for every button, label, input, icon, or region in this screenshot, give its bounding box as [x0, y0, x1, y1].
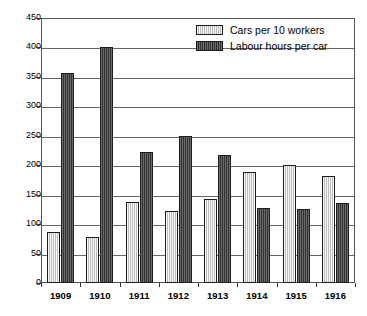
x-axis-tick-label: 1914 — [246, 290, 267, 301]
legend-item[interactable]: Cars per 10 workers — [196, 23, 356, 37]
legend-item[interactable]: Labour hours per car — [196, 39, 356, 53]
x-axis-tick-mark — [237, 283, 238, 287]
bars-layer — [41, 18, 355, 283]
x-axis-tick-label: 1910 — [89, 290, 110, 301]
bar-1914-series2 — [257, 208, 270, 283]
x-axis-tick-mark — [120, 283, 121, 287]
legend-swatch-icon — [196, 25, 223, 35]
bar-1915-series2 — [297, 209, 310, 283]
chart-legend: Cars per 10 workersLabour hours per car — [196, 23, 356, 55]
bar-1912-series2 — [179, 136, 192, 283]
bar-1909-series1 — [47, 232, 60, 283]
x-axis-tick-label: 1916 — [325, 290, 346, 301]
legend-label: Labour hours per car — [230, 40, 327, 52]
bar-1916-series2 — [336, 203, 349, 283]
y-axis: 050100150200250300350400450 — [0, 0, 41, 316]
legend-label: Cars per 10 workers — [230, 24, 325, 36]
x-axis-tick-label: 1909 — [50, 290, 71, 301]
x-axis: 19091910191119121913191419151916 — [41, 283, 355, 316]
x-axis-tick-label: 1911 — [129, 290, 150, 301]
bar-1915-series1 — [283, 165, 296, 283]
bar-chart: 050100150200250300350400450 190919101911… — [0, 0, 367, 316]
x-axis-tick-mark — [80, 283, 81, 287]
x-axis-tick-label: 1915 — [286, 290, 307, 301]
bar-1910-series2 — [100, 47, 113, 283]
bar-1911-series1 — [126, 202, 139, 283]
x-axis-tick-mark — [198, 283, 199, 287]
x-axis-tick-mark — [277, 283, 278, 287]
bar-1913-series1 — [204, 199, 217, 283]
x-axis-tick-label: 1912 — [168, 290, 189, 301]
bar-1910-series1 — [86, 237, 99, 283]
x-axis-tick-mark — [355, 283, 356, 287]
x-axis-tick-label: 1913 — [207, 290, 228, 301]
bar-1912-series1 — [165, 211, 178, 283]
bar-1916-series1 — [322, 176, 335, 283]
bar-1913-series2 — [218, 155, 231, 283]
x-axis-tick-mark — [316, 283, 317, 287]
legend-swatch-icon — [196, 41, 223, 51]
x-axis-tick-mark — [159, 283, 160, 287]
bar-1909-series2 — [61, 73, 74, 283]
bar-1914-series1 — [243, 172, 256, 283]
x-axis-tick-mark — [41, 283, 42, 287]
bar-1911-series2 — [140, 152, 153, 283]
